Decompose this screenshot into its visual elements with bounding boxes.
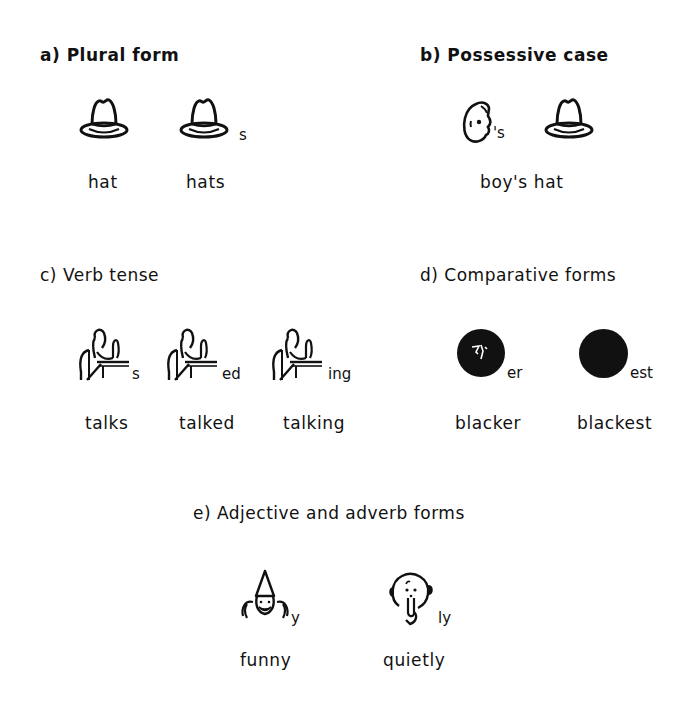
adverb-suffix-ly: ly [438,609,451,627]
section-c-title: c) Verb tense [40,265,159,285]
label-quietly: quietly [383,650,445,670]
section-a-title: a) Plural form [40,45,179,65]
label-talking: talking [283,413,345,433]
black-circle-icon [579,329,628,378]
label-funny: funny [240,650,291,670]
comparative-suffix-est: est [630,364,653,382]
hat-icon [78,98,130,140]
section-d-title: d) Comparative forms [420,265,616,285]
verb-suffix-ed: ed [222,365,241,383]
adjective-suffix-y: y [291,609,300,627]
plural-suffix: s [239,126,247,144]
clown-icon [239,570,291,626]
label-talked: talked [179,413,235,433]
person-talking-icon [268,328,324,382]
verb-suffix-ing: ing [328,365,351,383]
label-blacker: blacker [455,413,521,433]
possessive-suffix: 's [493,124,505,142]
section-e-title: e) Adjective and adverb forms [193,503,465,523]
person-talking-icon [75,328,131,382]
label-boys-hat: boy's hat [480,172,563,192]
hat-icon [543,98,595,140]
comparative-suffix-er: er [507,364,522,382]
hat-icon [178,98,230,140]
section-b-title: b) Possessive case [420,45,609,65]
person-talking-icon [163,328,219,382]
verb-suffix-s: s [132,365,140,383]
quiet-face-icon [386,572,436,626]
black-circle-icon [457,329,505,377]
label-hats: hats [186,172,225,192]
label-hat: hat [88,172,118,192]
label-blackest: blackest [577,413,652,433]
boy-head-icon [462,100,494,146]
label-talks: talks [85,413,129,433]
